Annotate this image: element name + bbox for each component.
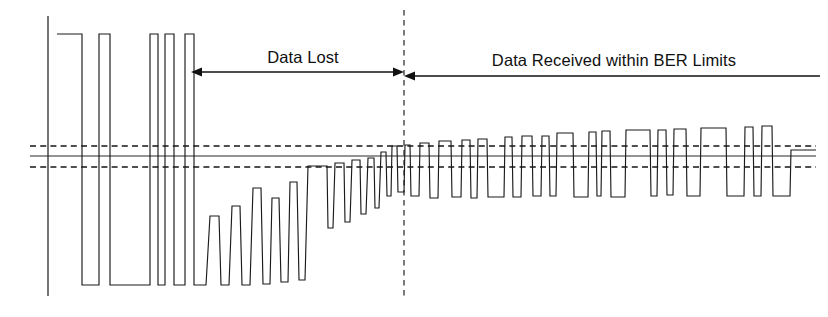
data-received-label: Data Received within BER Limits <box>492 51 736 69</box>
waveform-canvas: Data Lost Data Received within BER Limit… <box>0 0 828 317</box>
annotation-labels-group: Data Lost Data Received within BER Limit… <box>267 48 736 69</box>
data-lost-arrow-head-right <box>393 67 404 76</box>
waveform-group <box>57 34 816 285</box>
annotations-group <box>191 67 820 80</box>
data-lost-arrow-head-left <box>191 67 202 76</box>
data-lost-label: Data Lost <box>267 48 339 66</box>
signal-degradation-figure: Data Lost Data Received within BER Limit… <box>0 0 828 317</box>
signal-waveform-trace <box>57 34 816 285</box>
data-received-arrow-head-left <box>404 71 415 80</box>
